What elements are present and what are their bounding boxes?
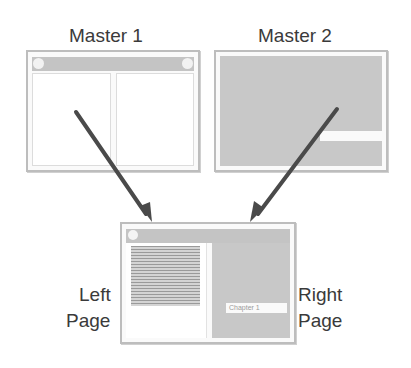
arrow-master-2-to-right-page xyxy=(250,109,337,222)
arrow-master-1-to-left-page xyxy=(76,112,152,222)
arrows-overlay xyxy=(0,0,411,368)
